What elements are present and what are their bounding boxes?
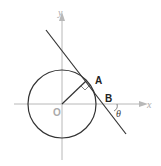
- x-axis-label: x: [146, 99, 152, 110]
- point-a-label: A: [95, 75, 102, 86]
- y-axis-label: y: [57, 7, 63, 18]
- origin-label: O: [53, 107, 61, 118]
- diagram-svg: A B O θ x y: [0, 0, 161, 166]
- diagram: A B O θ x y: [0, 0, 161, 166]
- radius-oa: [62, 81, 86, 104]
- point-b-label: B: [105, 93, 112, 104]
- angle-label: θ: [116, 108, 121, 119]
- tangent-line: [46, 30, 126, 134]
